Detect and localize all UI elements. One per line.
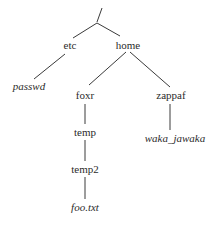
- edge-root-stem: [97, 8, 102, 22]
- edge-home-zappaf: [130, 52, 170, 87]
- edge-root-home: [97, 23, 120, 36]
- tree-edges: [34, 8, 170, 199]
- node-foxr: foxr: [76, 89, 95, 101]
- node-foo-txt: foo.txt: [71, 201, 100, 213]
- tree-nodes: etc home passwd foxr zappaf temp temp2 f…: [12, 39, 206, 213]
- node-zappaf: zappaf: [156, 89, 186, 101]
- directory-tree-diagram: etc home passwd foxr zappaf temp temp2 f…: [0, 0, 215, 226]
- node-temp2: temp2: [71, 163, 99, 175]
- node-waka-jawaka: waka_jawaka: [145, 132, 206, 144]
- edge-home-foxr: [89, 52, 126, 85]
- node-etc: etc: [64, 39, 77, 51]
- node-home: home: [116, 39, 141, 51]
- node-temp: temp: [74, 126, 96, 138]
- edge-etc-passwd: [34, 54, 65, 79]
- edge-root-etc: [73, 23, 97, 38]
- node-passwd: passwd: [12, 80, 46, 92]
